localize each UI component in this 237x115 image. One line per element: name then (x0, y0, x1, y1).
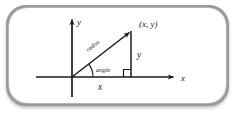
hypotenuse-label: radius (85, 38, 101, 53)
point-label: (x, y) (139, 19, 157, 29)
angle-label: angle (96, 66, 111, 73)
vertical-side-label: y (136, 50, 142, 60)
x-axis-label: x (180, 73, 185, 83)
figure-root: y x (x, y) radius angle y x (0, 0, 237, 115)
y-axis-label: y (76, 17, 81, 27)
coordinate-diagram: y x (x, y) radius angle y x (0, 0, 237, 115)
horizontal-side-label: x (97, 82, 103, 92)
angle-arc (89, 64, 93, 77)
right-angle-marker (124, 70, 132, 78)
